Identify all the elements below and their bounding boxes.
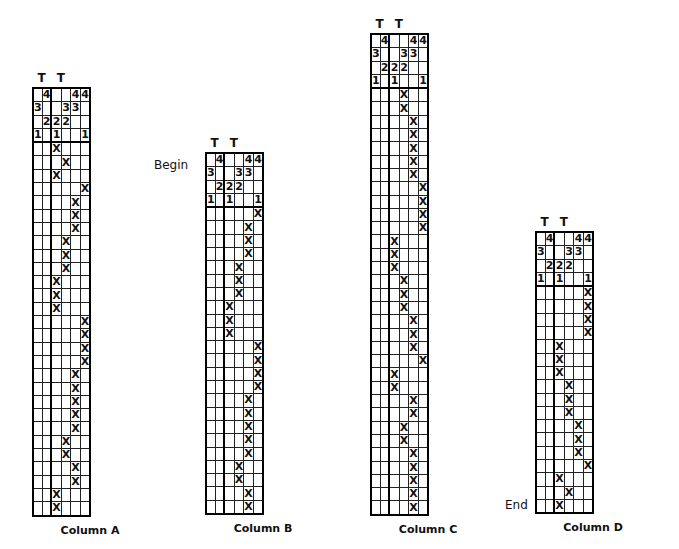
threading-cell	[33, 88, 42, 102]
grid-cell	[554, 460, 564, 473]
grid-cell	[574, 327, 583, 340]
grid-cell	[583, 380, 593, 393]
grid-cell	[418, 474, 428, 487]
grid-cell	[61, 355, 70, 368]
grid-cell	[564, 460, 573, 473]
pattern-row: X	[33, 342, 90, 355]
threading-cell	[545, 246, 554, 259]
grid-cell	[80, 302, 90, 315]
grid-cell	[33, 183, 42, 196]
grid-cell	[51, 316, 61, 329]
header-row: 333	[371, 48, 428, 61]
grid-cell	[536, 420, 545, 433]
turn-mark-cell: X	[583, 460, 593, 473]
threading-cell	[71, 128, 80, 142]
grid-cell	[42, 369, 51, 382]
grid-cell	[61, 209, 70, 222]
grid-cell	[215, 381, 224, 394]
grid-cell	[33, 355, 42, 368]
grid-cell	[545, 300, 554, 313]
turn-mark-cell: X	[61, 249, 70, 262]
pattern-row: X	[536, 406, 593, 419]
grid-cell	[206, 434, 215, 447]
pattern-row: X	[206, 248, 263, 261]
tablet-label: T	[205, 137, 224, 149]
grid-cell	[206, 500, 215, 514]
grid-cell	[206, 248, 215, 261]
grid-cell	[554, 286, 564, 300]
pattern-row: X	[536, 393, 593, 406]
grid-cell	[564, 420, 573, 433]
grid-cell	[51, 222, 61, 235]
grid-cell	[399, 341, 408, 354]
header-row: 111	[371, 74, 428, 88]
grid-cell	[574, 393, 583, 406]
turn-mark-cell: X	[71, 209, 80, 222]
grid-cell	[61, 475, 70, 488]
pattern-row: X	[371, 355, 428, 368]
grid-cell	[206, 234, 215, 247]
turn-mark-cell: X	[409, 315, 418, 328]
turn-mark-cell: X	[244, 248, 253, 261]
grid-cell	[418, 421, 428, 434]
grid-cell	[234, 354, 243, 367]
pattern-row: X	[206, 314, 263, 327]
tablet-label: T	[32, 72, 51, 84]
grid-cell	[42, 276, 51, 289]
pattern-row: X	[371, 288, 428, 301]
grid-cell	[545, 340, 554, 353]
pattern-row: X	[371, 195, 428, 208]
grid-cell	[536, 286, 545, 300]
grid-cell	[536, 300, 545, 313]
chart-grid: 444333222111XXXXXXXXXXXXXXXXXXXXXXX	[205, 152, 264, 515]
turn-mark-cell: X	[399, 301, 408, 314]
grid-cell	[42, 395, 51, 408]
pattern-row: X	[536, 340, 593, 353]
grid-cell	[371, 222, 380, 235]
turn-mark-cell: X	[253, 367, 263, 380]
turn-mark-cell: X	[574, 433, 583, 446]
grid-cell	[371, 328, 380, 341]
grid-cell	[574, 380, 583, 393]
grid-cell	[564, 300, 573, 313]
grid-cell	[234, 367, 243, 380]
threading-cell: 3	[61, 102, 70, 115]
grid-cell	[371, 182, 380, 195]
threading-cell: 2	[234, 180, 243, 193]
grid-cell	[380, 408, 389, 421]
grid-cell	[253, 460, 263, 473]
grid-cell	[389, 421, 399, 434]
threading-cell	[564, 232, 573, 246]
grid-cell	[380, 341, 389, 354]
grid-cell	[389, 275, 399, 288]
grid-cell	[71, 289, 80, 302]
grid-cell	[399, 448, 408, 461]
grid-cell	[371, 501, 380, 515]
turn-mark-cell: X	[244, 434, 253, 447]
grid-cell	[380, 102, 389, 115]
grid-cell	[51, 395, 61, 408]
turn-mark-cell: X	[564, 486, 573, 499]
grid-cell	[253, 248, 263, 261]
grid-cell	[389, 129, 399, 142]
grid-cell	[51, 249, 61, 262]
grid-cell	[206, 394, 215, 407]
threading-cell: 4	[215, 153, 224, 167]
grid-cell	[51, 355, 61, 368]
pattern-row: X	[371, 328, 428, 341]
pattern-row: X	[33, 382, 90, 395]
grid-cell	[215, 354, 224, 367]
grid-cell	[244, 261, 253, 274]
grid-cell	[554, 313, 564, 326]
grid-cell	[33, 475, 42, 488]
grid-cell	[80, 369, 90, 382]
grid-cell	[380, 288, 389, 301]
grid-cell	[51, 329, 61, 342]
grid-cell	[536, 353, 545, 366]
grid-cell	[42, 502, 51, 516]
turn-mark-cell: X	[234, 274, 243, 287]
grid-cell	[253, 301, 263, 314]
threading-cell	[244, 180, 253, 193]
threading-cell: 4	[80, 88, 90, 102]
grid-cell	[224, 407, 234, 420]
